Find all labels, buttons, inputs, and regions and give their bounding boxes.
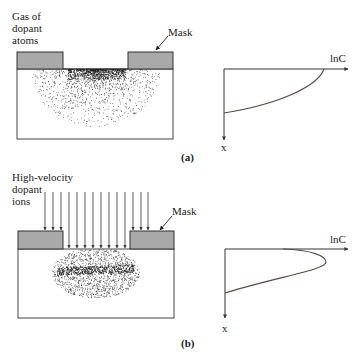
concentration-curve-b <box>225 249 326 293</box>
mask-right-b <box>130 231 174 249</box>
mask-label-a: Mask <box>168 26 192 38</box>
source-label-a: Gas of dopant atoms <box>12 10 42 46</box>
panel-b-graph <box>225 249 348 318</box>
substrate-b <box>18 249 174 318</box>
mask-label-b: Mask <box>172 205 196 217</box>
caption-b: (b) <box>181 337 194 349</box>
caption-a: (a) <box>181 151 194 163</box>
panel-b-cross-section <box>18 192 174 318</box>
x-label-a: x <box>221 141 227 153</box>
lnc-label-a: lnC <box>330 52 346 64</box>
concentration-curve-a <box>224 69 324 113</box>
x-label-b: x <box>222 322 228 334</box>
mask-left-b <box>18 231 63 249</box>
substrate-a <box>17 69 173 139</box>
panel-a-graph <box>224 69 348 140</box>
mask-pointer-arrow-b <box>160 216 172 230</box>
lnc-label-b: lnC <box>330 233 346 245</box>
mask-right-a <box>128 52 173 69</box>
mask-left-a <box>17 52 63 69</box>
panel-a-cross-section <box>17 36 173 139</box>
mask-pointer-arrow-a <box>156 36 168 50</box>
source-label-b: High-velocity dopant ions <box>12 171 73 207</box>
